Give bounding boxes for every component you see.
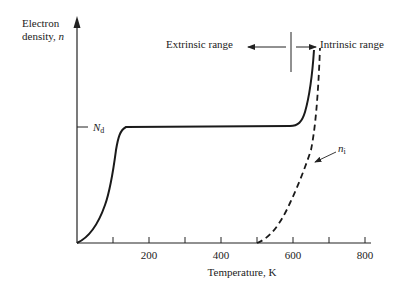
y-axis-label-text: density, bbox=[22, 30, 59, 42]
x-axis: 200 400 600 800 Temperature, K bbox=[77, 237, 374, 278]
ni-annotation: ni bbox=[315, 142, 347, 162]
nd-marker: Nd bbox=[77, 121, 104, 135]
electron-density-chart: 200 400 600 800 Temperature, K Electron … bbox=[0, 0, 402, 288]
ni-label: ni bbox=[338, 142, 347, 156]
x-tick-label-800: 800 bbox=[357, 249, 374, 261]
y-axis-label-line2: density, n bbox=[22, 30, 65, 42]
x-tick-label-200: 200 bbox=[141, 249, 158, 261]
y-axis-label-var: n bbox=[59, 30, 65, 42]
y-axis-label-line1: Electron bbox=[22, 17, 60, 29]
extrinsic-range-label: Extrinsic range bbox=[166, 38, 233, 50]
y-axis-label: Electron density, n bbox=[22, 17, 65, 42]
ni-sub: i bbox=[344, 147, 347, 156]
electron-density-curve bbox=[77, 50, 314, 243]
range-annotations: Extrinsic range Intrinsic range bbox=[166, 32, 384, 72]
x-axis-label: Temperature, K bbox=[208, 266, 277, 278]
y-axis-arrow-icon bbox=[74, 16, 81, 28]
intrinsic-range-label: Intrinsic range bbox=[320, 38, 384, 50]
x-tick-label-400: 400 bbox=[213, 249, 230, 261]
nd-label: Nd bbox=[92, 121, 104, 135]
nd-sub: d bbox=[100, 126, 104, 135]
x-tick-label-600: 600 bbox=[285, 249, 302, 261]
x-ticks bbox=[113, 237, 365, 243]
y-axis bbox=[74, 16, 81, 243]
